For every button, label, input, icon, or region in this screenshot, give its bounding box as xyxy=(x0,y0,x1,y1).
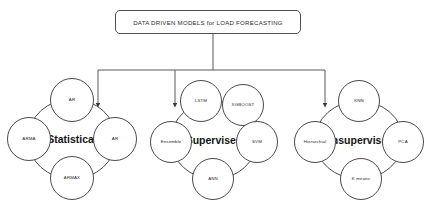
page-title: DATA DRIVEN MODELS for LOAD FORECASTING xyxy=(133,19,283,26)
node-label: PCA xyxy=(398,139,407,145)
diagram-canvas: DATA DRIVEN MODELS for LOAD FORECASTING … xyxy=(0,0,434,217)
node-ensemble[interactable]: Ensemble xyxy=(150,121,192,163)
node-xgboost[interactable]: XGBOOST xyxy=(222,84,264,126)
node-label: AR xyxy=(112,136,118,142)
node-label: Ensemble xyxy=(161,139,182,145)
cluster-unsupervised: Unsupervised KNN PCA K means Hierarchial xyxy=(294,80,424,200)
node-svm[interactable]: SVM xyxy=(236,121,278,163)
node-arma[interactable]: ARMA xyxy=(7,117,51,161)
node-label: LSTM xyxy=(195,98,207,104)
node-label: ARMAX xyxy=(64,175,80,181)
node-ann[interactable]: ANN xyxy=(192,158,234,200)
node-label: AR xyxy=(69,97,75,103)
node-armax[interactable]: ARMAX xyxy=(50,156,94,200)
diagram-title-box: DATA DRIVEN MODELS for LOAD FORECASTING xyxy=(115,10,301,34)
node-kmeans[interactable]: K means xyxy=(340,158,382,200)
node-label: XGBOOST xyxy=(232,102,255,108)
node-label: SVM xyxy=(252,139,262,145)
node-label: ANN xyxy=(208,176,218,182)
cluster-supervised: Supervised LSTM XGBOOST SVM ANN Ensemble xyxy=(150,80,278,200)
node-hierarchical[interactable]: Hierarchial xyxy=(294,121,336,163)
node-label: ARMA xyxy=(22,136,35,142)
node-ar-right[interactable]: AR xyxy=(93,117,137,161)
node-label: KNN xyxy=(354,98,364,104)
node-pca[interactable]: PCA xyxy=(382,121,424,163)
node-ar-top[interactable]: AR xyxy=(50,78,94,122)
node-lstm[interactable]: LSTM xyxy=(180,80,222,122)
node-label: K means xyxy=(352,176,370,182)
cluster-statistical: Statistical AR AR ARMAX ARMA xyxy=(7,78,137,200)
node-label: Hierarchial xyxy=(304,139,327,145)
node-knn[interactable]: KNN xyxy=(338,80,380,122)
